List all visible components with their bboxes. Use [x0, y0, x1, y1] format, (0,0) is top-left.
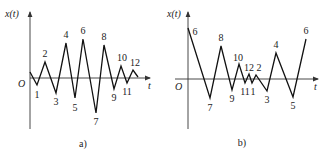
point-label: 1: [251, 86, 256, 97]
point-label: 8: [219, 32, 224, 43]
t-axis-label: t: [148, 80, 151, 91]
point-label: 2: [257, 62, 262, 73]
point-label: 12: [130, 57, 140, 68]
point-label: 9: [230, 93, 235, 104]
panel-a: x(t) t O 123456789101112 a): [4, 8, 151, 150]
point-label: 10: [117, 52, 127, 63]
point-label: 6: [81, 25, 86, 36]
point-label: 6: [304, 25, 309, 36]
t-axis-label: t: [314, 81, 317, 92]
point-label: 9: [112, 92, 117, 103]
origin-label: O: [18, 78, 25, 89]
point-label: 12: [244, 62, 254, 73]
panel-caption: b): [238, 137, 246, 149]
point-label: 11: [240, 86, 250, 97]
point-label: 4: [64, 29, 69, 40]
point-label: 5: [291, 100, 296, 111]
origin-label: O: [175, 81, 182, 92]
point-label: 2: [43, 48, 48, 59]
panel-b: x(t) t O 6789101112123456 b): [166, 8, 318, 149]
point-label: 7: [208, 102, 213, 113]
diagram-canvas: x(t) t O 123456789101112 a) x(t) t O 678…: [0, 0, 331, 159]
point-label: 3: [265, 94, 270, 105]
point-label: 7: [94, 116, 99, 127]
point-label: 4: [274, 39, 279, 50]
y-axis-label: x(t): [4, 8, 20, 20]
point-label: 5: [73, 102, 78, 113]
point-label: 6: [193, 26, 198, 37]
point-label: 1: [35, 89, 40, 100]
point-label: 11: [122, 86, 132, 97]
point-label: 3: [54, 96, 59, 107]
y-axis-label: x(t): [166, 8, 182, 20]
point-label: 8: [102, 31, 107, 42]
panel-caption: a): [79, 138, 87, 150]
point-label: 10: [233, 52, 243, 63]
